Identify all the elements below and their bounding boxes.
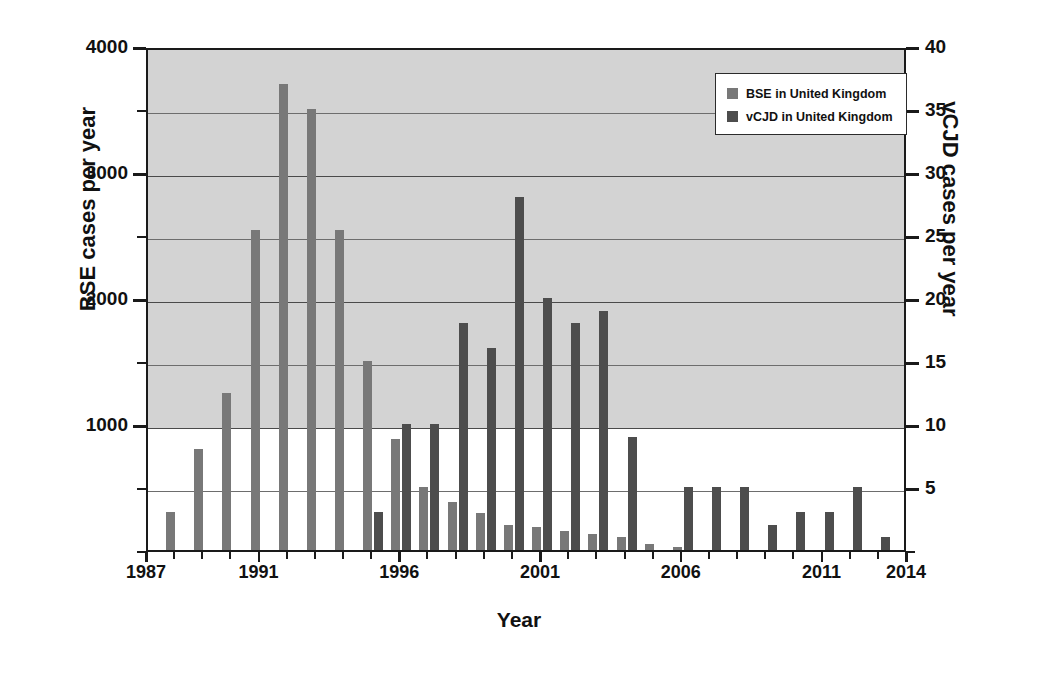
x-tick bbox=[764, 552, 766, 559]
y-tick-left bbox=[133, 425, 146, 428]
bar-vcjd-1996 bbox=[402, 424, 411, 550]
bar-bse-2003 bbox=[588, 534, 597, 550]
bar-vcjd-1997 bbox=[430, 424, 439, 550]
y-tick-right bbox=[906, 47, 919, 50]
bar-bse-1988 bbox=[166, 512, 175, 550]
x-tick bbox=[342, 552, 344, 559]
y-tick-label-right: 5 bbox=[925, 477, 936, 499]
y-tick-right bbox=[906, 425, 919, 428]
bar-vcjd-2010 bbox=[796, 512, 805, 550]
y-tick-left bbox=[137, 236, 146, 238]
bar-bse-1996 bbox=[391, 439, 400, 550]
legend-item-vcjd: vCJD in United Kingdom bbox=[727, 105, 906, 128]
y-tick-right bbox=[906, 236, 919, 239]
y-tick-label-right: 40 bbox=[925, 36, 946, 58]
x-tick bbox=[849, 552, 851, 559]
x-tick-label: 1991 bbox=[229, 562, 289, 583]
y-tick-label-right: 20 bbox=[925, 288, 946, 310]
bar-vcjd-2003 bbox=[599, 311, 608, 550]
bar-bse-2001 bbox=[532, 527, 541, 550]
x-tick-label: 2006 bbox=[651, 562, 711, 583]
y-tick-left bbox=[137, 110, 146, 112]
bar-vcjd-2004 bbox=[628, 437, 637, 550]
bar-vcjd-2006 bbox=[684, 487, 693, 550]
bar-vcjd-1995 bbox=[374, 512, 383, 550]
x-tick bbox=[145, 552, 148, 562]
bar-bse-1990 bbox=[222, 393, 231, 551]
x-tick bbox=[286, 552, 288, 559]
legend-item-bse: BSE in United Kingdom bbox=[727, 82, 906, 105]
x-tick-label: 2001 bbox=[510, 562, 570, 583]
bar-bse-2005 bbox=[645, 544, 654, 550]
bar-vcjd-2000 bbox=[515, 197, 524, 550]
x-tick bbox=[708, 552, 710, 559]
bar-vcjd-2011 bbox=[825, 512, 834, 550]
legend-label-vcjd: vCJD in United Kingdom bbox=[746, 110, 893, 124]
x-tick bbox=[652, 552, 654, 559]
bar-bse-2006 bbox=[673, 547, 682, 550]
bar-vcjd-2013 bbox=[881, 537, 890, 550]
x-axis-title: Year bbox=[0, 608, 1038, 632]
y-tick-left bbox=[133, 173, 146, 176]
x-tick bbox=[877, 552, 879, 559]
x-tick bbox=[821, 552, 824, 562]
x-tick bbox=[567, 552, 569, 559]
y-tick-right bbox=[906, 299, 919, 302]
bar-bse-1989 bbox=[194, 449, 203, 550]
bar-vcjd-1999 bbox=[487, 348, 496, 550]
bar-bse-1998 bbox=[448, 502, 457, 550]
bar-bse-2000 bbox=[504, 525, 513, 550]
y-tick-left bbox=[133, 299, 146, 302]
x-tick bbox=[905, 552, 908, 562]
x-tick bbox=[173, 552, 175, 559]
x-tick bbox=[511, 552, 513, 559]
y-tick-right bbox=[906, 110, 919, 113]
x-tick bbox=[370, 552, 372, 559]
legend-swatch-vcjd-icon bbox=[727, 111, 738, 122]
y-tick-label-right: 10 bbox=[925, 414, 946, 436]
x-tick bbox=[595, 552, 597, 559]
y-axis-left-title: BSE cases per year bbox=[75, 59, 101, 359]
bar-bse-1992 bbox=[279, 84, 288, 550]
x-tick bbox=[426, 552, 428, 559]
legend-swatch-bse-icon bbox=[727, 88, 738, 99]
bar-bse-1994 bbox=[335, 230, 344, 550]
chart-figure: BSE cases per year vCJD cases per year Y… bbox=[0, 0, 1038, 688]
chart-legend: BSE in United Kingdom vCJD in United Kin… bbox=[715, 73, 907, 135]
bar-bse-1999 bbox=[476, 513, 485, 550]
x-tick-label: 1996 bbox=[369, 562, 429, 583]
y-tick-label-left: 2000 bbox=[60, 288, 128, 310]
x-tick bbox=[229, 552, 231, 559]
y-tick-label-right: 15 bbox=[925, 351, 946, 373]
x-tick bbox=[680, 552, 683, 562]
x-tick-label: 2011 bbox=[792, 562, 852, 583]
bar-vcjd-2001 bbox=[543, 298, 552, 550]
legend-label-bse: BSE in United Kingdom bbox=[746, 87, 886, 101]
bar-bse-1995 bbox=[363, 361, 372, 550]
x-tick-label: 1987 bbox=[116, 562, 176, 583]
y-tick-label-right: 30 bbox=[925, 162, 946, 184]
x-tick bbox=[483, 552, 485, 559]
x-tick bbox=[455, 552, 457, 559]
y-tick-label-left: 4000 bbox=[60, 36, 128, 58]
bar-vcjd-2012 bbox=[853, 487, 862, 550]
bar-vcjd-2002 bbox=[571, 323, 580, 550]
x-tick bbox=[624, 552, 626, 559]
y-tick-label-left: 1000 bbox=[60, 414, 128, 436]
y-tick-left bbox=[137, 362, 146, 364]
bar-vcjd-2009 bbox=[768, 525, 777, 550]
x-tick bbox=[201, 552, 203, 559]
y-tick-label-right: 35 bbox=[925, 99, 946, 121]
x-tick bbox=[314, 552, 316, 559]
y-tick-right bbox=[906, 362, 919, 365]
y-tick-right bbox=[906, 488, 919, 491]
bar-bse-1991 bbox=[251, 230, 260, 550]
x-tick bbox=[258, 552, 261, 562]
bar-bse-2004 bbox=[617, 537, 626, 550]
x-tick bbox=[539, 552, 542, 562]
bar-bse-1997 bbox=[419, 487, 428, 550]
bar-bse-1993 bbox=[307, 109, 316, 550]
bar-bse-1987 bbox=[146, 537, 147, 550]
bar-bse-2002 bbox=[560, 531, 569, 550]
x-tick-label: 2014 bbox=[876, 562, 936, 583]
